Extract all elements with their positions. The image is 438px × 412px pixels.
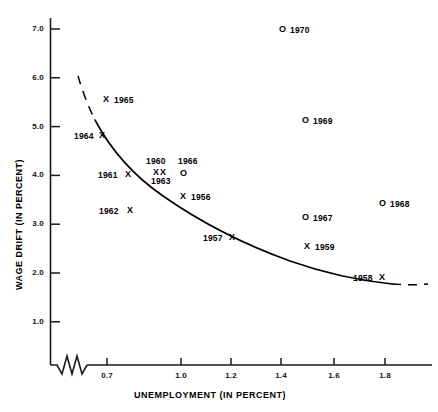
y-axis-title: WAGE DRIFT (IN PERCENT) [14, 159, 24, 290]
ytick-label-6: 6.0 [18, 73, 44, 82]
marker-1961: X [125, 170, 131, 179]
marker-1965: X [103, 95, 109, 104]
ytick-label-7: 7.0 [18, 24, 44, 33]
x-axis-ticks [107, 358, 385, 365]
marker-1959: X [304, 242, 310, 251]
point-label-1967: 1967 [313, 214, 333, 223]
ytick-label-5: 5.0 [18, 122, 44, 131]
point-label-1970: 1970 [290, 26, 310, 35]
fitted-curve-dashed-upper [78, 76, 95, 120]
point-label-1963: 1963 [151, 177, 171, 186]
marker-1969: O [302, 116, 309, 125]
marker-1957: X [229, 233, 235, 242]
y-axis-ticks [51, 29, 61, 322]
point-label-1957: 1957 [203, 234, 223, 243]
marker-1958: X [379, 273, 385, 282]
marker-1962: X [127, 206, 133, 215]
point-label-1959: 1959 [315, 243, 335, 252]
marker-1968: O [379, 199, 386, 208]
x-axis-title: UNEMPLOYMENT (IN PERCENT) [134, 390, 286, 400]
xtick-label-0-7: 0.7 [89, 371, 125, 380]
point-label-1966: 1966 [178, 157, 198, 166]
x-axis-break-zigzag [51, 356, 88, 374]
xtick-label-1-2: 1.2 [213, 371, 249, 380]
point-label-1958: 1958 [353, 274, 373, 283]
marker-1970: O [279, 25, 286, 34]
marker-1966: O [180, 169, 187, 178]
fitted-curve-solid [95, 120, 392, 284]
point-label-1956: 1956 [191, 193, 211, 202]
point-label-1964: 1964 [74, 132, 94, 141]
ytick-label-1: 1.0 [18, 317, 44, 326]
xtick-label-1-6: 1.6 [316, 371, 352, 380]
plot-canvas [0, 0, 438, 412]
marker-1956: X [180, 192, 186, 201]
point-label-1962: 1962 [99, 207, 119, 216]
point-label-1965: 1965 [114, 96, 134, 105]
xtick-label-1-0: 1.0 [163, 371, 199, 380]
xtick-label-1-8: 1.8 [367, 371, 403, 380]
point-label-1968: 1968 [390, 200, 410, 209]
marker-1967: O [302, 213, 309, 222]
scatter-chart: 7.0 6.0 5.0 4.0 3.0 2.0 1.0 0.7 1.0 1.2 … [0, 0, 438, 412]
fitted-curve-dashed-lower [392, 284, 428, 285]
point-label-1960: 1960 [146, 157, 166, 166]
xtick-label-1-4: 1.4 [263, 371, 299, 380]
marker-1964: X [99, 131, 105, 140]
point-label-1961: 1961 [98, 171, 118, 180]
point-label-1969: 1969 [313, 117, 333, 126]
